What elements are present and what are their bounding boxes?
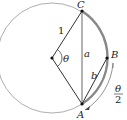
angle-arc (58, 50, 62, 66)
center-point (50, 56, 53, 59)
point-B (105, 56, 108, 59)
radius-C (52, 11, 82, 58)
label-half-theta-den: 2 (115, 94, 121, 105)
label-B: B (110, 49, 118, 60)
radius-A (52, 58, 82, 104)
label-half-theta-num: θ (115, 83, 121, 94)
label-b: b (91, 70, 97, 81)
point-A (80, 102, 83, 105)
label-a: a (84, 48, 90, 59)
label-A: A (76, 109, 84, 120)
label-theta: θ (63, 53, 69, 64)
label-radius: 1 (58, 25, 64, 36)
label-C: C (77, 0, 85, 10)
geometry-diagram: C B A 1 θ a b θ 2 (0, 0, 127, 120)
